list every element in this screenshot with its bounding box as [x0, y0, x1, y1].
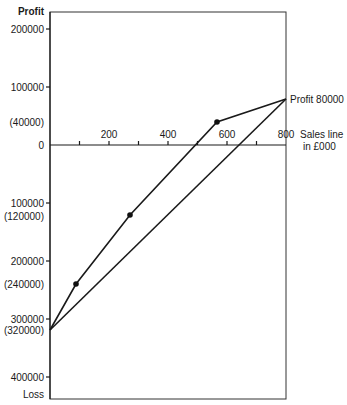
y-label-profit: Profit: [18, 6, 45, 17]
y-special-label: (40000): [10, 117, 44, 128]
plot-frame: [50, 12, 286, 399]
x-tick-label: 600: [219, 129, 236, 140]
y-tick-label: 200000: [11, 256, 45, 267]
profit-volume-chart: Profit 200000 100000 (40000) 0 100000 (1…: [0, 0, 347, 405]
y-special-label: (320000): [4, 325, 44, 336]
y-tick-label: 100000: [11, 198, 45, 209]
x-axis-title-line1: Sales line: [300, 129, 344, 140]
y-tick-label: 300000: [11, 314, 45, 325]
profit-annotation: Profit 80000: [290, 94, 344, 105]
y-tick-label: 200000: [11, 24, 45, 35]
y-label-loss: Loss: [23, 389, 44, 400]
y-zero-label: 0: [38, 140, 44, 151]
y-tick-label: 400000: [11, 372, 45, 383]
y-tick-label: 100000: [11, 82, 45, 93]
data-point: [214, 119, 220, 125]
y-special-label: (240000): [4, 279, 44, 290]
data-point: [127, 212, 133, 218]
x-tick-label: 200: [101, 129, 118, 140]
x-axis-title-line2: in £000: [303, 141, 336, 152]
data-point: [73, 281, 79, 287]
x-tick-label: 800: [278, 129, 295, 140]
x-tick-label: 400: [160, 129, 177, 140]
y-special-label: (120000): [4, 211, 44, 222]
